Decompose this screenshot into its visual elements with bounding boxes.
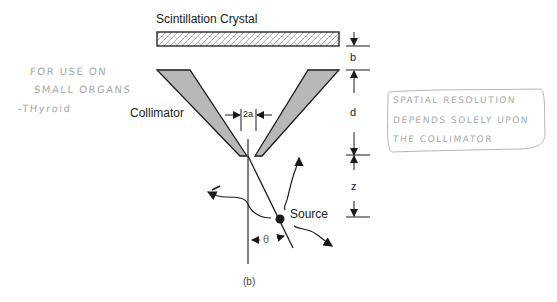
right-note-line-3: THE COLLIMATOR <box>393 134 494 144</box>
left-note-line-2: SMALL ORGANS <box>34 84 132 95</box>
dim-z-label: z <box>351 180 357 192</box>
collimator-label: Collimator <box>130 106 184 120</box>
left-note-line-1: FOR USE ON <box>30 66 108 77</box>
scatter-ray-down <box>294 226 332 246</box>
aperture-label: 2a <box>243 109 253 119</box>
theta-label: θ <box>263 233 269 245</box>
source-label: Source <box>290 207 328 221</box>
figure-caption: (b) <box>243 276 255 287</box>
dim-b-label: b <box>350 51 356 63</box>
right-note-line-1: SPATIAL RESOLUTION <box>393 95 517 105</box>
collimator-diagram <box>0 0 557 302</box>
scatter-ray-left-tick <box>212 186 220 190</box>
source-point <box>276 215 285 224</box>
dimension-z <box>346 156 370 217</box>
left-note-line-3: -THyroid <box>18 103 72 114</box>
dim-d-label: d <box>350 106 356 118</box>
scatter-ray-up <box>284 158 299 210</box>
crystal-label: Scintillation Crystal <box>156 12 257 26</box>
right-note-line-2: DEPENDS SOLELY UPON <box>393 115 530 125</box>
scintillation-crystal <box>157 32 339 46</box>
collimator-right-wedge <box>255 70 339 156</box>
scatter-ray-left <box>208 192 271 218</box>
